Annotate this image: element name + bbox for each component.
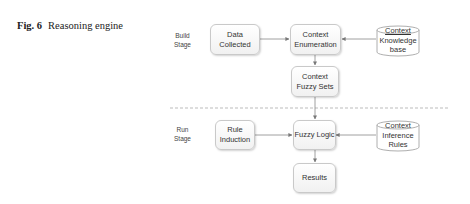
node-text: base [376, 45, 420, 55]
node-context-fuzzy-sets: Context Fuzzy Sets [291, 66, 339, 97]
build-stage-line2: Stage [174, 40, 191, 49]
node-context-inference-rules: Context Inference Rules [376, 120, 420, 152]
node-results: Results [293, 163, 336, 193]
node-rule-induction: Rule Induction [215, 120, 255, 150]
node-text: Enumeration [294, 40, 337, 50]
node-text: Context [303, 30, 329, 40]
run-stage-label: Run Stage [174, 125, 191, 143]
build-stage-label: Build Stage [174, 31, 191, 49]
node-text: Induction [220, 135, 250, 145]
node-text: Context [302, 72, 328, 82]
node-text: Context [376, 26, 420, 36]
node-text: Fuzzy Sets [296, 82, 333, 92]
node-text: Fuzzy Logic [294, 130, 334, 140]
node-fuzzy-logic: Fuzzy Logic [293, 120, 336, 150]
build-stage-line1: Build [174, 31, 191, 40]
node-context-enumeration: Context Enumeration [290, 24, 341, 55]
node-text: Collected [219, 40, 250, 50]
node-text: Rule [227, 125, 242, 135]
node-text: Results [302, 173, 327, 183]
node-data-collected: Data Collected [210, 24, 260, 55]
node-text: Rules [376, 140, 420, 150]
node-text: Data [227, 30, 243, 40]
run-stage-line2: Stage [174, 134, 191, 143]
node-text: Context [376, 121, 420, 131]
run-stage-line1: Run [174, 125, 191, 134]
node-context-knowledge-base: Context Knowledge base [376, 25, 420, 57]
